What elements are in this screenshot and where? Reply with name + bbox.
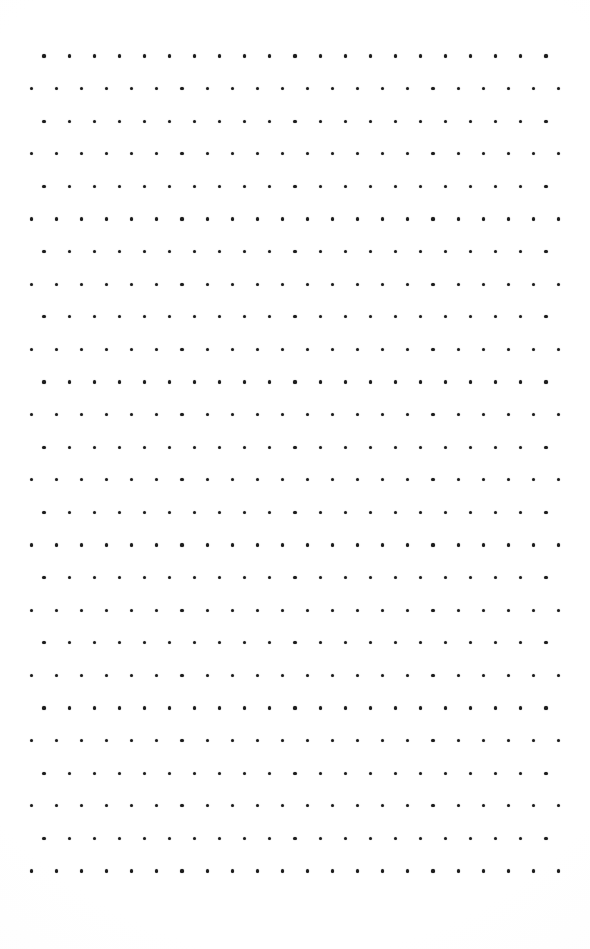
grid-dot — [293, 576, 296, 579]
grid-dot — [42, 250, 45, 253]
grid-dot — [168, 315, 171, 318]
grid-dot — [469, 250, 472, 253]
grid-dot — [55, 283, 58, 286]
grid-dot — [306, 543, 309, 546]
grid-dot — [118, 706, 121, 709]
grid-dot — [143, 380, 146, 383]
grid-dot — [469, 772, 472, 775]
grid-dot — [381, 152, 384, 155]
grid-dot — [130, 348, 133, 351]
grid-dot — [155, 478, 158, 481]
grid-dot — [218, 706, 221, 709]
grid-dot — [193, 185, 196, 188]
grid-dot — [469, 641, 472, 644]
grid-dot — [394, 511, 397, 514]
grid-dot — [42, 511, 45, 514]
grid-dot — [457, 543, 460, 546]
grid-dot — [130, 87, 133, 90]
grid-dot — [55, 87, 58, 90]
grid-dot — [306, 478, 309, 481]
grid-dot — [180, 217, 183, 220]
grid-dot — [293, 772, 296, 775]
grid-dot — [55, 804, 58, 807]
grid-dot — [143, 250, 146, 253]
grid-dot — [218, 511, 221, 514]
grid-dot — [256, 739, 259, 742]
grid-dot — [557, 674, 560, 677]
grid-dot — [293, 250, 296, 253]
grid-dot — [243, 250, 246, 253]
grid-dot — [268, 511, 271, 514]
grid-dot — [155, 217, 158, 220]
grid-dot — [519, 380, 522, 383]
grid-dot — [482, 674, 485, 677]
grid-dot — [168, 380, 171, 383]
grid-dot — [557, 739, 560, 742]
grid-dot — [268, 315, 271, 318]
grid-dot — [494, 576, 497, 579]
grid-dot — [68, 185, 71, 188]
grid-dot — [168, 706, 171, 709]
grid-dot — [68, 576, 71, 579]
grid-dot — [331, 217, 334, 220]
grid-dot — [444, 120, 447, 123]
grid-dot — [444, 641, 447, 644]
grid-dot — [130, 543, 133, 546]
grid-dot — [206, 609, 209, 612]
grid-dot — [356, 739, 359, 742]
grid-dot — [381, 674, 384, 677]
grid-dot — [193, 54, 196, 57]
grid-dot — [93, 446, 96, 449]
grid-dot — [319, 772, 322, 775]
grid-dot — [231, 217, 234, 220]
grid-dot — [394, 576, 397, 579]
grid-dot — [344, 837, 347, 840]
grid-dot — [55, 739, 58, 742]
grid-dot — [93, 772, 96, 775]
grid-dot — [68, 54, 71, 57]
grid-dot — [419, 380, 422, 383]
grid-dot — [519, 641, 522, 644]
grid-dot — [482, 217, 485, 220]
grid-dot — [256, 543, 259, 546]
grid-dot — [469, 120, 472, 123]
grid-dot — [105, 217, 108, 220]
grid-dot — [180, 87, 183, 90]
grid-dot — [419, 315, 422, 318]
grid-dot — [331, 413, 334, 416]
grid-dot — [30, 152, 33, 155]
grid-dot — [482, 609, 485, 612]
grid-dot — [93, 120, 96, 123]
grid-dot — [544, 120, 547, 123]
grid-dot — [494, 120, 497, 123]
grid-dot — [243, 772, 246, 775]
grid-dot — [557, 609, 560, 612]
grid-dot — [293, 54, 296, 57]
grid-dot — [80, 609, 83, 612]
grid-dot — [30, 413, 33, 416]
grid-dot — [80, 543, 83, 546]
grid-dot — [256, 413, 259, 416]
grid-dot — [369, 380, 372, 383]
grid-dot — [231, 348, 234, 351]
grid-dot — [30, 348, 33, 351]
grid-dot — [155, 283, 158, 286]
grid-dot — [532, 152, 535, 155]
grid-dot — [180, 152, 183, 155]
grid-dot — [431, 217, 434, 220]
grid-dot — [243, 576, 246, 579]
grid-dot — [243, 120, 246, 123]
grid-dot — [369, 120, 372, 123]
grid-dot — [130, 739, 133, 742]
grid-dot — [206, 152, 209, 155]
grid-dot — [494, 641, 497, 644]
grid-dot — [319, 315, 322, 318]
grid-dot — [344, 315, 347, 318]
grid-dot — [80, 869, 83, 872]
grid-dot — [155, 869, 158, 872]
grid-dot — [344, 446, 347, 449]
grid-dot — [444, 54, 447, 57]
grid-dot — [130, 152, 133, 155]
grid-dot — [469, 446, 472, 449]
grid-dot — [281, 413, 284, 416]
